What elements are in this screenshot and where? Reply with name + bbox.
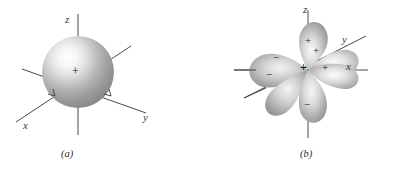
- figure-panel-b: z y x + + − + + − − (b): [196, 0, 393, 172]
- panel-b-graphic: [196, 0, 393, 172]
- lobe-sign-bottom: −: [304, 99, 310, 110]
- axis-label-x: x: [23, 120, 28, 131]
- nucleus-sign-positive: +: [300, 61, 307, 73]
- lobe-sign-left-x: −: [273, 52, 279, 63]
- nucleus-sign-positive: +: [72, 65, 79, 77]
- panel-caption-a: (a): [61, 149, 73, 160]
- lobe-sign-top: +: [305, 35, 311, 46]
- axis-label-z: z: [65, 14, 69, 25]
- panel-caption-b: (b): [300, 149, 312, 160]
- figure-panel-a: z y x + (a): [0, 0, 196, 172]
- figure-root: z y x + (a): [0, 0, 393, 172]
- axis-label-y: y: [143, 112, 148, 123]
- axis-label-z: z: [303, 4, 307, 15]
- lobe-sign-right-x: +: [322, 62, 328, 73]
- lobe-sign-left-y: −: [266, 69, 272, 80]
- axis-label-y: y: [342, 34, 347, 45]
- lobe-sign-right-y: +: [313, 45, 319, 56]
- axis-label-x: x: [346, 61, 351, 72]
- panel-a-graphic: [0, 0, 196, 172]
- axis-stub-negative-y: [244, 88, 266, 98]
